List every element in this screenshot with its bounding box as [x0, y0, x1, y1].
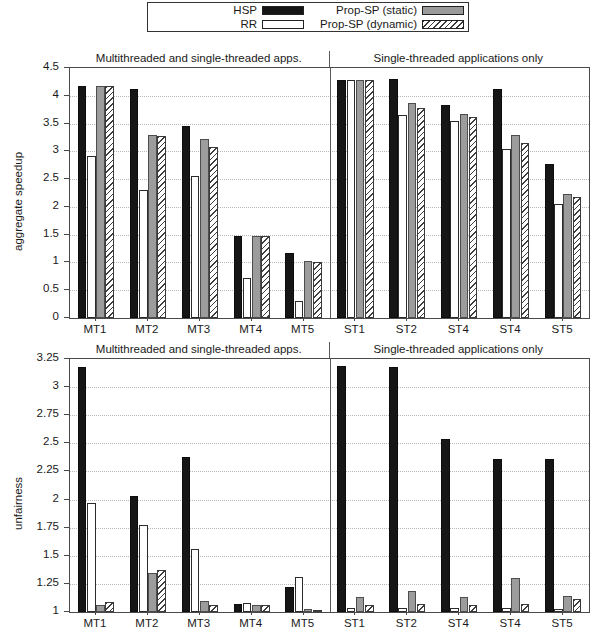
legend-entry-hsp: HSP [148, 4, 308, 17]
figure-root: HSP Prop-SP (static) RR Prop-SP (dynamic… [0, 0, 596, 642]
y-tick-mark [64, 317, 69, 318]
bar-hsp [182, 126, 191, 318]
bar-prop-sp-static [460, 114, 469, 318]
bar-prop-sp-static [96, 605, 105, 612]
bar-prop-sp-dynamic [105, 86, 114, 318]
legend-label-hsp: HSP [233, 5, 257, 16]
x-tick-label: MT1 [83, 617, 106, 629]
y-tick-mark [64, 414, 69, 415]
bar-prop-sp-dynamic [365, 80, 374, 318]
bar-prop-sp-static [200, 601, 209, 612]
y-tick-mark [64, 583, 69, 584]
x-tick-mark [251, 611, 252, 615]
bar-rr [87, 503, 96, 612]
x-tick-mark [510, 611, 511, 615]
x-tick-mark [458, 611, 459, 615]
x-tick-mark [251, 317, 252, 321]
x-tick-label: MT5 [291, 617, 314, 629]
y-tick-mark [64, 386, 69, 387]
y-tick-label: 1.25 [17, 577, 59, 588]
bar-prop-sp-static [304, 261, 313, 318]
bar-hsp [493, 459, 502, 612]
bar-prop-sp-static [563, 596, 572, 612]
bar-rr [502, 149, 511, 318]
y-tick-label: 2.25 [17, 464, 59, 475]
y-tick-label: 1.5 [17, 549, 59, 560]
x-tick-mark [303, 611, 304, 615]
x-tick-mark [199, 611, 200, 615]
bar-prop-sp-dynamic [105, 602, 114, 612]
bar-hsp [130, 89, 139, 318]
bar-hsp [545, 164, 554, 318]
bar-prop-sp-static [148, 573, 157, 612]
bar-hsp [78, 86, 87, 318]
bar-hsp [389, 79, 398, 318]
y-tick-mark [64, 442, 69, 443]
section-divider [330, 359, 331, 612]
section-divider-caption [329, 51, 330, 67]
bar-prop-sp-static [356, 80, 365, 318]
legend-label-prop-sp-static: Prop-SP (static) [336, 5, 417, 16]
y-tick-label: 2.75 [17, 408, 59, 419]
section-caption-singlethreaded-top: Single-threaded applications only [329, 52, 589, 64]
x-tick-mark [562, 317, 563, 321]
y-tick-mark [64, 555, 69, 556]
bar-rr [295, 577, 304, 612]
legend-entry-prop-sp-dynamic: Prop-SP (dynamic) [308, 18, 468, 31]
bar-rr [139, 190, 148, 318]
bar-prop-sp-dynamic [157, 136, 166, 318]
bar-prop-sp-dynamic [417, 108, 426, 318]
x-tick-label: MT4 [239, 617, 262, 629]
y-tick-mark [64, 178, 69, 179]
bar-rr [87, 156, 96, 318]
bar-rr [191, 549, 200, 612]
y-tick-label: 3 [17, 380, 59, 391]
x-tick-label: ST4 [500, 617, 521, 629]
legend-label-prop-sp-dynamic: Prop-SP (dynamic) [320, 19, 417, 30]
y-tick-label: 2.5 [17, 436, 59, 447]
x-tick-mark [147, 611, 148, 615]
y-tick-label: 3.25 [17, 352, 59, 363]
bar-hsp [78, 367, 87, 612]
bar-prop-sp-static [511, 135, 520, 318]
y-tick-mark [64, 527, 69, 528]
section-caption-singlethreaded-bottom: Single-threaded applications only [329, 343, 589, 355]
y-tick-label: 1 [17, 255, 59, 266]
y-tick-mark [64, 234, 69, 235]
x-tick-mark [354, 317, 355, 321]
x-tick-mark [354, 611, 355, 615]
bar-rr [398, 115, 407, 318]
bar-prop-sp-dynamic [521, 604, 530, 612]
legend-swatch-rr-icon [262, 20, 304, 29]
x-tick-label: ST2 [396, 617, 417, 629]
bar-prop-sp-static [408, 591, 417, 612]
x-tick-label: ST5 [552, 617, 573, 629]
bar-prop-sp-static [148, 135, 157, 318]
bar-prop-sp-dynamic [157, 570, 166, 612]
bar-hsp [285, 253, 294, 318]
bar-rr [139, 525, 148, 612]
y-tick-label: 1.75 [17, 521, 59, 532]
y-tick-label: 0.5 [17, 283, 59, 294]
bar-prop-sp-dynamic [209, 147, 218, 318]
y-tick-label: 2 [17, 200, 59, 211]
y-tick-label: 2.5 [17, 172, 59, 183]
bar-hsp [441, 439, 450, 612]
x-tick-mark [406, 317, 407, 321]
x-tick-label: MT3 [187, 617, 210, 629]
bar-rr [191, 176, 200, 318]
bar-prop-sp-dynamic [209, 605, 218, 612]
x-tick-mark [147, 317, 148, 321]
y-tick-mark [64, 358, 69, 359]
bar-prop-sp-static [200, 139, 209, 318]
bar-prop-sp-dynamic [417, 604, 426, 612]
bar-prop-sp-static [96, 86, 105, 318]
section-caption-multithreaded-bottom: Multithreaded and single-threaded apps. [69, 343, 329, 355]
bar-prop-sp-static [408, 103, 417, 318]
x-tick-label: ST4 [448, 617, 469, 629]
bar-hsp [182, 457, 191, 612]
section-divider [330, 68, 331, 318]
bar-hsp [545, 459, 554, 612]
bar-rr [450, 121, 459, 318]
bar-hsp [441, 105, 450, 318]
